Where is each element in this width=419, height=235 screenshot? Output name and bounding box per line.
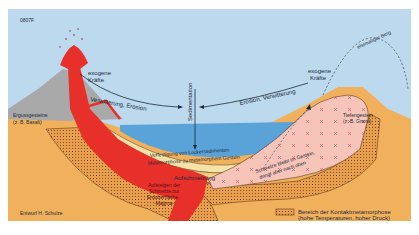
rock-cycle-diagram: 0807F exogene Kräfte Verwitterung, Erosi…: [8, 9, 411, 221]
legend-swatch: [276, 209, 294, 215]
exogenous-label-left-2: Kräfte: [88, 77, 105, 83]
figure-code: 0807F: [20, 17, 34, 23]
exogenous-label-right: exogene: [308, 68, 332, 74]
exogenous-label-right-2: Kräfte: [310, 75, 327, 81]
magma-rise-label-4: -Magma-: [154, 200, 174, 206]
credit-label: Entwurf H. Schulze: [20, 210, 63, 216]
exogenous-label-left: exogene: [88, 70, 112, 76]
sedimentation-label: Sedimentation: [187, 83, 193, 121]
caption-strip: [0, 222, 419, 235]
legend-sublabel: (hohe Temperaturen, hoher Druck): [298, 215, 390, 221]
melting-label: Aufschmelzung: [174, 175, 215, 181]
volcanic-rock-example: (z. B. Basalt): [13, 119, 42, 125]
volcanic-rock-label: Ergussgesteine: [13, 112, 48, 118]
plutonic-rock-example: (z. B. Granit): [343, 118, 372, 124]
